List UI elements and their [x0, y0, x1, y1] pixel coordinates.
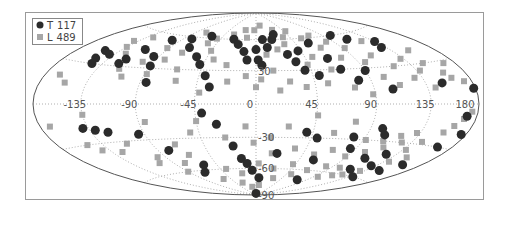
L-square-marker — [79, 112, 85, 118]
L-square-marker — [277, 88, 283, 94]
legend-marker-circle-icon — [37, 22, 44, 29]
L-square-marker — [205, 40, 211, 46]
T-circle-marker — [254, 173, 263, 182]
T-circle-marker — [199, 160, 208, 169]
L-square-marker — [208, 48, 214, 54]
L-square-marker — [304, 167, 310, 173]
L-square-marker — [323, 39, 329, 45]
L-square-marker — [315, 174, 321, 180]
T-circle-marker — [229, 142, 238, 151]
T-circle-marker — [293, 175, 302, 184]
T-circle-marker — [239, 47, 248, 56]
L-square-marker — [57, 72, 63, 78]
T-circle-marker — [294, 46, 303, 55]
T-circle-marker — [142, 78, 151, 87]
T-circle-marker — [382, 150, 391, 159]
L-square-marker — [420, 60, 426, 66]
T-circle-marker — [301, 66, 310, 75]
L-square-marker — [405, 47, 411, 53]
latitude-tick-label: -90 — [258, 190, 274, 201]
L-square-marker — [381, 74, 387, 80]
L-square-marker — [292, 146, 298, 152]
L-square-marker — [398, 133, 404, 139]
L-square-marker — [448, 75, 454, 81]
T-circle-marker — [248, 166, 257, 175]
L-square-marker — [224, 79, 230, 85]
T-circle-marker — [433, 143, 442, 152]
L-square-marker — [211, 57, 217, 63]
T-circle-marker — [187, 34, 196, 43]
L-square-marker — [286, 124, 292, 130]
T-circle-marker — [141, 45, 150, 54]
L-square-marker — [253, 84, 259, 90]
L-square-marker — [318, 45, 324, 51]
L-square-marker — [280, 34, 286, 40]
L-square-marker — [323, 163, 329, 169]
L-square-marker — [330, 147, 336, 153]
L-square-marker — [256, 182, 262, 188]
T-circle-marker — [91, 126, 100, 135]
L-square-marker — [150, 34, 156, 40]
L-square-marker — [185, 169, 191, 175]
T-circle-marker — [377, 43, 386, 52]
T-circle-marker — [263, 43, 272, 52]
L-square-marker — [358, 38, 364, 44]
longitude-tick-label: -135 — [63, 99, 86, 110]
L-square-marker — [315, 112, 321, 118]
T-circle-marker — [336, 65, 345, 74]
L-square-marker — [221, 176, 227, 182]
L-square-marker — [362, 59, 368, 65]
L-square-marker — [352, 85, 358, 91]
T-circle-marker — [122, 55, 131, 64]
L-square-marker — [440, 60, 446, 66]
L-square-marker — [363, 137, 369, 143]
L-square-marker — [131, 38, 137, 44]
L-square-marker — [404, 154, 410, 160]
L-square-marker — [157, 160, 163, 166]
L-square-marker — [172, 141, 178, 147]
T-circle-marker — [258, 35, 267, 44]
L-square-marker — [257, 23, 263, 29]
T-circle-marker — [291, 57, 300, 66]
L-square-marker — [419, 139, 425, 145]
L-square-marker — [258, 76, 264, 82]
T-circle-marker — [463, 112, 472, 121]
T-circle-marker — [342, 35, 351, 44]
L-square-marker — [440, 70, 446, 76]
T-circle-marker — [195, 60, 204, 69]
L-square-marker — [441, 130, 447, 136]
L-square-marker — [142, 119, 148, 125]
T-circle-marker — [315, 71, 324, 80]
T-circle-marker — [252, 45, 261, 54]
L-square-marker — [249, 184, 255, 190]
longitude-tick-label: 0 — [247, 99, 253, 110]
L-square-marker — [329, 172, 335, 178]
longitude-tick-label: 90 — [364, 99, 377, 110]
L-square-marker — [124, 44, 130, 50]
T-circle-marker — [389, 85, 398, 94]
L-square-marker — [239, 170, 245, 176]
L-square-marker — [339, 172, 345, 178]
latitude-tick-label: 30 — [258, 66, 271, 77]
L-square-marker — [386, 159, 392, 165]
T-circle-marker — [283, 50, 292, 59]
L-square-marker — [298, 35, 304, 41]
T-circle-marker — [398, 160, 407, 169]
L-square-marker — [309, 54, 315, 60]
L-square-marker — [270, 68, 276, 74]
latitude-tick-label: -60 — [258, 163, 274, 174]
T-circle-marker — [205, 83, 214, 92]
L-square-marker — [274, 46, 280, 52]
T-circle-marker — [164, 146, 173, 155]
longitude-tick-label: -45 — [180, 99, 196, 110]
L-square-marker — [84, 142, 90, 148]
L-square-marker — [193, 118, 199, 124]
legend-label-T: T117 — [46, 20, 76, 31]
T-circle-marker — [380, 130, 389, 139]
T-circle-marker — [457, 130, 466, 139]
T-circle-marker — [207, 32, 216, 41]
L-square-marker — [174, 66, 180, 72]
latitude-tick-label: -30 — [258, 132, 274, 143]
L-square-marker — [164, 45, 170, 51]
T-circle-marker — [346, 144, 355, 153]
